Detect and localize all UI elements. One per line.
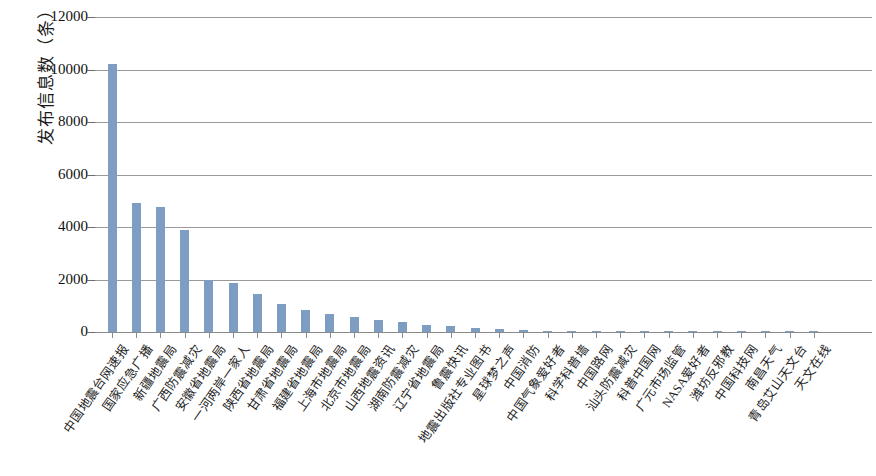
- x-axis-tick-labels: 中国地震台网速报国家应急广播新疆地震局广西防震减灾安徽省地震局一河两岸一家人陕西…: [0, 0, 876, 476]
- bar-chart: 发布信息数（条） 120001000080006000400020000 中国地…: [0, 0, 876, 476]
